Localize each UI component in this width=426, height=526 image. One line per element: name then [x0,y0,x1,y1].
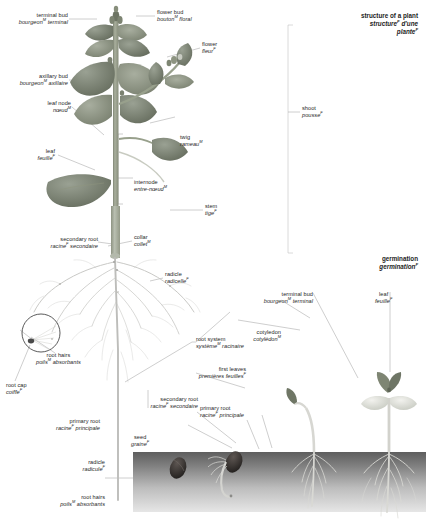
mature-plant [46,6,194,259]
label-secondary-root-germination: secondary root racineF secondaire [151,396,198,410]
page-title-en: structure of a plant [361,12,418,20]
label-leaf: leaf feuilleF [38,148,55,162]
label-axillary-bud: axillary bud bourgeonM axillaire [20,73,68,87]
label-secondary-root-upper: secondary root racineF secondaire [51,236,98,250]
page-title: structure of a plant structureF d'une pl… [361,12,418,37]
label-root-hairs-lower: root hairs poilsM absorbants [60,494,105,508]
label-shoot: shoot pousseF [302,105,323,119]
label-stem: stem tigeF [205,203,217,217]
seedling-leaf-tip [286,388,297,404]
label-primary-root-left: primary root racineF principale [56,418,100,432]
label-leaf-node: leaf node nœudM [48,100,71,114]
page-title-fr-line2: planteF [361,28,418,36]
label-leaf-germination: leaf feuilleF [375,291,392,305]
plant-structure-diagram: structure of a plant structureF d'une pl… [0,0,426,526]
label-internode: internode entre-nœudM [134,179,167,193]
label-terminal-bud-germination: terminal bud bourgeonM terminal [264,291,313,305]
label-cotyledon: cotyledon cotylédonM [253,329,281,343]
label-root-hairs-upper: root hairs poilsM absorbants [36,352,81,366]
label-primary-root-germination: primary root racineF principale [200,405,244,419]
label-flower-bud: flower bud boutonM floral [157,9,192,23]
label-seed: seed graineF [131,434,149,448]
label-terminal-bud: terminal bud bourgeonM terminal [19,12,68,26]
germination-title-en: germination [379,255,418,263]
label-twig: twig rameauM [180,134,203,148]
label-flower: flower fleurF [202,41,217,55]
root-hairs-magnifier [22,314,60,352]
label-root-system: root system systèmeM racinaire [196,336,244,350]
label-radicle-lower: radicle radiculeF [83,459,105,473]
germination-title-fr: germinationF [379,263,418,271]
germination-title: germination germinationF [379,255,418,271]
label-collar: collar colletM [134,234,151,248]
label-radicle-upper: radicle radicelleF [165,271,189,285]
label-root-cap: root cap coiffeF [6,382,27,396]
label-first-leaves: first leaves premières feuillesF [199,366,246,380]
